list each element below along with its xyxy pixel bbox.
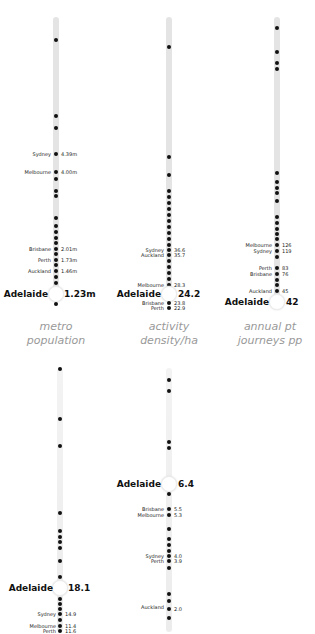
- data-dot: [167, 549, 171, 553]
- data-dot: [167, 259, 171, 263]
- data-dot-brisbane: [54, 247, 58, 251]
- data-dot: [275, 67, 279, 71]
- value-sydney: 4.39m: [61, 152, 77, 157]
- data-dot: [167, 243, 171, 247]
- data-dot: [275, 255, 279, 259]
- label-auckland: Auckland: [141, 253, 164, 258]
- data-dot: [167, 440, 171, 444]
- label-perth: Perth: [38, 258, 51, 263]
- data-dot: [275, 180, 279, 184]
- data-dot: [167, 543, 171, 547]
- data-dot: [58, 540, 62, 544]
- value-sydney: 14.9: [65, 612, 76, 617]
- label-sydney: Sydney: [37, 612, 56, 617]
- data-dot: [167, 231, 171, 235]
- data-dot-sydney: [167, 248, 171, 252]
- data-dot: [58, 529, 62, 533]
- value-adelaide: 24.2: [178, 289, 200, 299]
- data-dot: [167, 225, 171, 229]
- data-dot: [275, 61, 279, 65]
- data-dot: [54, 216, 58, 220]
- data-dot: [58, 559, 62, 563]
- data-dot: [167, 599, 171, 603]
- data-dot: [275, 186, 279, 190]
- value-adelaide: 1.23m: [64, 289, 96, 299]
- data-dot: [275, 227, 279, 231]
- label-perth: Perth: [151, 306, 164, 311]
- data-dot: [54, 281, 58, 285]
- data-dot: [167, 45, 171, 49]
- title-line-1: annual pt: [225, 320, 315, 334]
- value-adelaide: 18.1: [68, 583, 90, 593]
- data-dot: [167, 527, 171, 531]
- data-dot-melbourne: [54, 170, 58, 174]
- data-dot: [167, 213, 171, 217]
- value-brisbane: 76: [282, 272, 288, 277]
- label-sydney: Sydney: [253, 249, 272, 254]
- data-dot-auckland: [54, 269, 58, 273]
- value-adelaide: 6.4: [178, 479, 194, 489]
- value-auckland: 35.7: [174, 253, 185, 258]
- data-dot: [58, 607, 62, 611]
- data-dot: [275, 50, 279, 54]
- value-perth: 11.6: [65, 629, 76, 634]
- data-dot: [167, 277, 171, 281]
- label-brisbane: Brisbane: [250, 272, 272, 277]
- value-melbourne: 4.00m: [61, 170, 77, 175]
- data-dot: [275, 215, 279, 219]
- data-dot-brisbane: [167, 507, 171, 511]
- data-dot: [54, 241, 58, 245]
- data-dot: [58, 618, 62, 622]
- data-dot-perth: [167, 559, 171, 563]
- data-dot: [58, 417, 62, 421]
- title-line-1: activity: [124, 320, 214, 334]
- title-line-1: metro: [11, 320, 101, 334]
- data-dot: [275, 199, 279, 203]
- data-dot: [58, 575, 62, 579]
- data-dot-auckland: [167, 607, 171, 611]
- data-dot: [167, 173, 171, 177]
- value-perth: 22.9: [174, 306, 185, 311]
- data-dot-auckland: [167, 253, 171, 257]
- label-perth: Perth: [151, 559, 164, 564]
- data-dot: [167, 189, 171, 193]
- data-dot-sydney: [275, 249, 279, 253]
- value-auckland: 45: [282, 289, 288, 294]
- data-dot-sydney: [54, 152, 58, 156]
- value-adelaide: 42: [286, 297, 299, 307]
- data-dot: [54, 126, 58, 130]
- data-dot: [54, 114, 58, 118]
- data-dot-perth: [167, 306, 171, 310]
- data-dot: [167, 616, 171, 620]
- data-dot: [58, 535, 62, 539]
- data-dot: [275, 191, 279, 195]
- data-dot: [167, 492, 171, 496]
- value-auckland: 1.46m: [61, 269, 77, 274]
- value-auckland: 2.0: [174, 607, 182, 612]
- data-dot: [58, 444, 62, 448]
- data-dot-perth: [58, 629, 62, 633]
- panel-title: metro population: [11, 320, 101, 348]
- title-line-2: journeys pp: [225, 334, 315, 348]
- label-adelaide: Adelaide: [117, 479, 161, 489]
- data-dot-melbourne: [58, 624, 62, 628]
- label-auckland: Auckland: [28, 269, 51, 274]
- data-dot: [54, 189, 58, 193]
- label-perth: Perth: [43, 629, 56, 634]
- data-dot: [275, 283, 279, 287]
- data-dot: [58, 367, 62, 371]
- data-dot: [58, 511, 62, 515]
- data-dot-perth: [54, 258, 58, 262]
- label-sydney: Sydney: [32, 152, 51, 157]
- title-line-2: density/ha: [124, 334, 214, 348]
- data-dot: [58, 602, 62, 606]
- label-auckland: Auckland: [249, 289, 272, 294]
- data-dot: [167, 592, 171, 596]
- label-adelaide: Adelaide: [117, 289, 161, 299]
- data-dot-sydney: [58, 612, 62, 616]
- data-dot: [58, 597, 62, 601]
- value-brisbane: 2.01m: [61, 247, 77, 252]
- label-melbourne: Melbourne: [138, 283, 164, 288]
- data-dot: [167, 389, 171, 393]
- data-dot: [167, 446, 171, 450]
